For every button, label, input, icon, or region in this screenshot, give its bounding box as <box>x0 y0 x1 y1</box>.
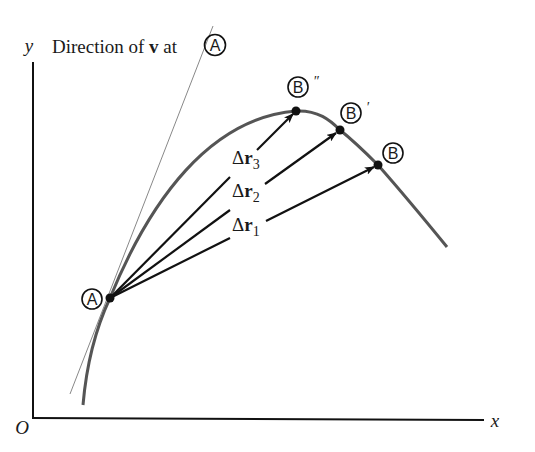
delta-r3-arrow-lower <box>110 177 230 298</box>
point-b-prime-dot <box>336 126 345 135</box>
vector-label-r1: Δr1 <box>232 214 260 239</box>
svg-text:A: A <box>210 37 221 54</box>
vector-label-r3: Δr3 <box>232 147 260 172</box>
vector-label-r2: Δr2 <box>232 180 260 205</box>
origin-label: O <box>15 417 29 438</box>
svg-text:Δr2: Δr2 <box>232 180 260 205</box>
axes <box>32 62 484 420</box>
delta-r2-arrow-upper <box>265 133 336 184</box>
label-b-prime: B ′ <box>341 100 370 123</box>
label-b-double-prime: B ″ <box>288 74 319 97</box>
y-axis-label: y <box>23 35 34 56</box>
x-axis-label: x <box>490 410 500 431</box>
delta-r1-arrow-lower <box>110 238 230 298</box>
diagram-canvas: A B B ′ B ″ Δr3 Δr2 Δr1 Direction of v a… <box>0 0 535 452</box>
svg-text:B: B <box>388 145 399 162</box>
svg-text:B: B <box>293 79 304 96</box>
svg-text:Δr3: Δr3 <box>232 147 260 172</box>
svg-text:″: ″ <box>313 74 319 89</box>
delta-r2-arrow-lower <box>110 210 230 298</box>
svg-text:A: A <box>87 291 98 308</box>
svg-text:Δr1: Δr1 <box>232 214 260 239</box>
tangent-line <box>70 26 213 394</box>
direction-label: Direction of v at A <box>52 35 226 58</box>
point-a-dot <box>106 294 115 303</box>
delta-r1-arrow-upper <box>266 167 374 221</box>
label-b: B <box>383 143 403 163</box>
svg-text:′: ′ <box>366 100 370 115</box>
point-b-dot <box>374 161 383 170</box>
svg-text:Direction of v at: Direction of v at <box>52 36 178 57</box>
x-axis <box>32 418 484 420</box>
label-a: A <box>82 289 102 309</box>
displacement-vectors <box>110 114 374 298</box>
point-b-double-prime-dot <box>292 107 301 116</box>
svg-text:B: B <box>346 105 357 122</box>
